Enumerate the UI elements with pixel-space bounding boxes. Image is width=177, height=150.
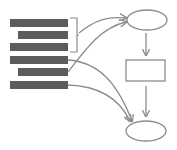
bar-5 <box>18 68 68 76</box>
flow-diagram <box>0 0 177 150</box>
middle-rect <box>126 60 165 81</box>
bar-1 <box>10 19 68 27</box>
bar-4 <box>10 56 68 64</box>
top-ellipse <box>127 10 167 30</box>
bottom-ellipse <box>126 121 166 141</box>
bar-3 <box>10 43 68 51</box>
bar-6 <box>10 81 68 89</box>
bar-2 <box>18 31 68 39</box>
